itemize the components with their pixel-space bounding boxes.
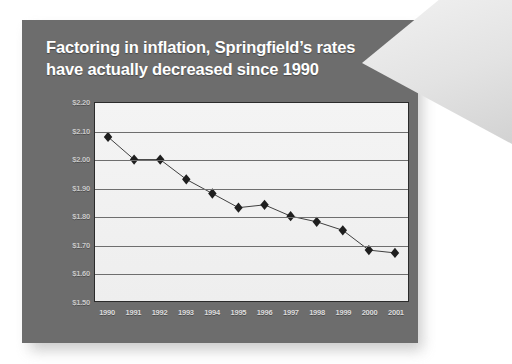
data-point-marker <box>286 211 294 221</box>
gridline <box>95 160 408 161</box>
data-point-marker <box>234 203 242 213</box>
data-point-marker <box>208 188 216 198</box>
x-axis-tick-label: 1993 <box>178 308 194 317</box>
gridline <box>95 303 408 304</box>
y-axis-tick-label: $1.50 <box>46 298 90 307</box>
line-chart: $2.20$2.10$2.00$1.90$1.80$1.70$1.60$1.50… <box>44 98 412 331</box>
gridline <box>95 132 408 133</box>
y-axis-tick-label: $2.10 <box>46 126 90 135</box>
y-axis-tick-label: $1.80 <box>46 212 90 221</box>
data-point-marker <box>182 174 190 184</box>
y-axis-tick-label: $1.90 <box>46 183 90 192</box>
x-axis-tick-label: 1991 <box>125 308 141 317</box>
x-axis-tick-label: 2001 <box>388 308 404 317</box>
y-axis-tick-label: $2.20 <box>46 98 90 107</box>
y-axis-tick-label: $2.00 <box>46 155 90 164</box>
y-axis-tick-label: $1.60 <box>46 269 90 278</box>
gridline <box>95 274 408 275</box>
y-axis-labels: $2.20$2.10$2.00$1.90$1.80$1.70$1.60$1.50 <box>44 102 90 302</box>
page-title: Factoring in inflation, Springfield’s ra… <box>46 37 396 81</box>
data-point-marker <box>260 200 268 210</box>
gridline <box>95 246 408 247</box>
y-axis-tick-label: $1.70 <box>46 240 90 249</box>
chart-series <box>95 103 408 301</box>
series-line <box>108 137 395 253</box>
x-axis-tick-label: 1997 <box>283 308 299 317</box>
chart-plot-area <box>94 102 409 302</box>
x-axis-tick-label: 1994 <box>204 308 220 317</box>
data-point-marker <box>391 248 399 258</box>
data-point-marker <box>104 132 112 142</box>
data-point-marker <box>339 225 347 235</box>
x-axis-tick-label: 1998 <box>309 308 325 317</box>
x-axis-tick-label: 1992 <box>152 308 168 317</box>
gridline <box>95 189 408 190</box>
x-axis-tick-label: 1999 <box>335 308 351 317</box>
presentation-slide: Factoring in inflation, Springfield’s ra… <box>22 20 418 343</box>
x-axis-tick-label: 1995 <box>230 308 246 317</box>
x-axis-tick-label: 1990 <box>99 308 115 317</box>
gridline <box>95 217 408 218</box>
x-axis-tick-label: 2000 <box>362 308 378 317</box>
x-axis-tick-label: 1996 <box>257 308 273 317</box>
